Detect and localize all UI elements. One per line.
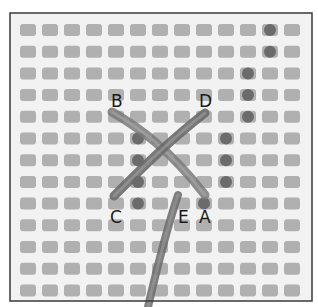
label-a: A xyxy=(199,209,211,226)
label-d: D xyxy=(199,93,212,110)
cross-stitch-photo xyxy=(0,0,318,307)
label-e: E xyxy=(178,209,189,226)
label-b: B xyxy=(111,93,123,110)
label-c: C xyxy=(110,209,122,226)
